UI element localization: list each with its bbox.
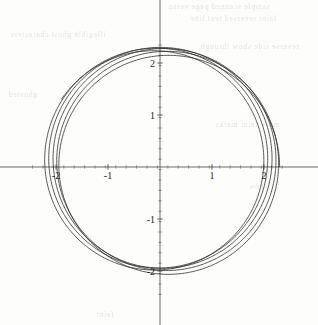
orbit-figure: -2-112-2-112 sample scanned page versofa…	[0, 0, 318, 325]
x-tick-label: 2	[262, 170, 267, 181]
y-tick-label: 1	[150, 110, 155, 121]
y-tick-label: -1	[147, 214, 155, 225]
orbit-path	[45, 47, 280, 274]
orbit-plot-canvas: -2-112-2-112	[0, 0, 318, 325]
x-tick-label: 1	[210, 170, 215, 181]
x-tick-label: -1	[104, 170, 112, 181]
minor-tick-marks	[33, 45, 283, 295]
y-tick-label: 2	[150, 58, 155, 69]
x-tick-label: -2	[52, 170, 60, 181]
y-tick-label: -2	[147, 266, 155, 277]
orbit-curve-group	[45, 47, 280, 274]
